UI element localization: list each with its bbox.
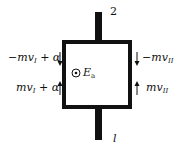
- arrow-up-icon: [133, 80, 141, 96]
- terminal-label-bottom: l: [113, 133, 117, 144]
- out-of-page-dot-icon: [71, 68, 81, 78]
- right-label-bottom: mvII: [146, 82, 168, 95]
- terminal-label-top: 2: [110, 6, 117, 17]
- left-label-bottom: mvI + α: [16, 82, 59, 95]
- arrow-down-icon: [56, 51, 64, 67]
- arrow-up-icon: [56, 80, 64, 96]
- arrow-down-icon: [133, 51, 141, 67]
- field-label: Ea: [83, 67, 95, 80]
- right-label-top: −mvII: [142, 52, 173, 65]
- left-label-top: −mvI + α: [8, 52, 60, 65]
- top-lead: [95, 12, 102, 41]
- bottom-lead: [95, 108, 102, 140]
